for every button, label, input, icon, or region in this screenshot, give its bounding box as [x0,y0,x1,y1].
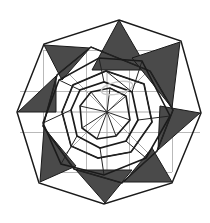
figure-canvas [0,0,210,223]
geometric-figure-svg [0,0,210,223]
